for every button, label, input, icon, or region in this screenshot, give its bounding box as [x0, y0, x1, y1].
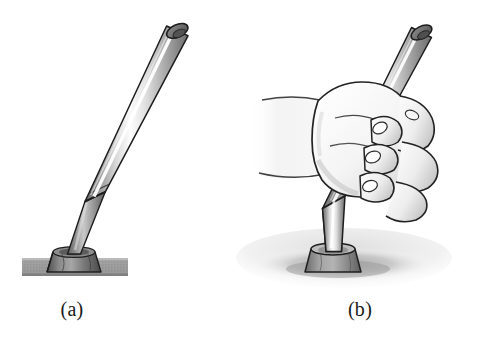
panel-a-illustration	[22, 20, 190, 276]
rod-a	[85, 26, 188, 202]
figure-container: (a) (b)	[0, 0, 477, 352]
panel-b-illustration	[236, 22, 452, 288]
panel-label-b: (b)	[325, 298, 395, 321]
panel-label-a: (a)	[37, 298, 107, 321]
